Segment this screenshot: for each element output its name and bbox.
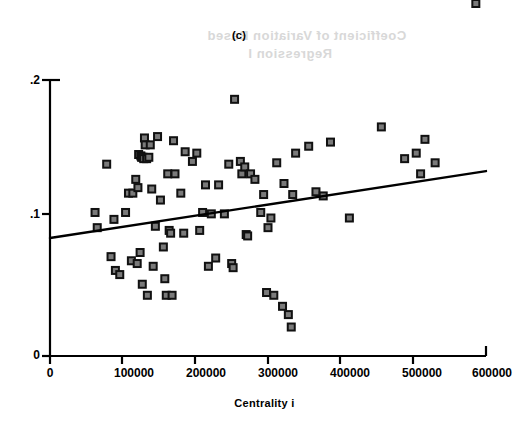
scatter-point [280,180,287,187]
scatter-point [144,292,151,299]
scatter-point [145,154,152,161]
scatter-point [205,263,212,270]
scatter-point [164,170,171,177]
scatter-point [196,227,203,234]
scatter-point [472,0,479,7]
scatter-point [260,191,267,198]
scatter-point [134,184,141,191]
scatter-point [231,96,238,103]
scatter-point [413,150,420,157]
scatter-point [171,170,178,177]
scatter-point [160,243,167,250]
scatter-points [92,0,480,331]
scatter-point [152,223,159,230]
scatter-point [244,232,251,239]
scatter-point [305,143,312,150]
scatter-point [417,170,424,177]
scatter-point [148,186,155,193]
scatter-point [202,181,209,188]
scatter-point [378,123,385,130]
scatter-point [267,215,274,222]
axis-lines [42,80,486,364]
scatter-point [137,249,144,256]
scatter-point [279,303,286,310]
scatter-point [263,289,270,296]
plot-canvas [0,0,529,438]
scatter-point [103,161,110,168]
scatter-point [169,292,176,299]
scatter-point [225,161,232,168]
scatter-point [132,176,139,183]
scatter-point [212,255,219,262]
scatter-point [92,209,99,216]
scatter-point [189,158,196,165]
scatter-point [288,324,295,331]
scatter-point [116,271,123,278]
scatter-point [154,133,161,140]
scatter-point [110,216,117,223]
scatter-point [327,139,334,146]
scatter-point [161,275,168,282]
scatter-point [230,264,237,271]
scatter-point [150,263,157,270]
scatter-point [312,188,319,195]
scatter-point [122,209,129,216]
scatter-point [270,292,277,299]
scatter-point [265,224,272,231]
scatter-point [157,197,164,204]
scatter-point [167,230,174,237]
scatter-point [215,181,222,188]
scatter-point [273,159,280,166]
scatter-point [251,176,258,183]
scatter-point [432,159,439,166]
scatter-point [170,137,177,144]
scatter-point [180,230,187,237]
scatter-point [147,141,154,148]
scatter-point [177,190,184,197]
scatter-plot-figure: Coefficient of Variation Based Regressio… [0,0,529,438]
scatter-point [257,209,264,216]
scatter-point [285,311,292,318]
scatter-point [346,215,353,222]
scatter-point [421,136,428,143]
scatter-point [401,155,408,162]
scatter-point [182,148,189,155]
scatter-point [193,150,200,157]
scatter-point [289,191,296,198]
scatter-point [134,260,141,267]
scatter-point [108,253,115,260]
scatter-point [292,150,299,157]
scatter-point [139,281,146,288]
